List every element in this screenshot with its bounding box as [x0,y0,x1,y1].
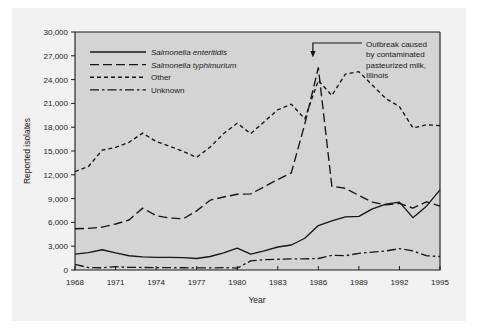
y-tick-label: 24,000 [44,76,69,85]
x-tick-label: 1995 [431,278,449,287]
y-tick-label: 15,000 [44,147,69,156]
y-tick-label: 12,000 [44,171,69,180]
annotation-text-line: by contaminated [366,50,425,59]
x-tick-label: 1968 [66,278,84,287]
y-tick-label: 27,000 [44,52,69,61]
legend-label: Unknown [151,86,184,95]
x-axis-title: Year [248,295,265,305]
salmonella-isolates-line-chart: 03,0006,0009,00012,00015,00018,00021,000… [0,0,478,329]
x-tick-label: 1983 [269,278,287,287]
y-tick-label: 6,000 [48,218,69,227]
y-tick-label: 18,000 [44,123,69,132]
x-tick-label: 1977 [188,278,206,287]
legend-label: Salmonella typhimurium [151,61,237,70]
x-tick-label: 1989 [350,278,368,287]
y-tick-label: 30,000 [44,28,69,37]
x-tick-label: 1980 [228,278,246,287]
y-axis-title: Reported isolates [22,118,32,184]
annotation-text-line: Illinois [366,71,388,80]
legend-label: Salmonella enteritidis [151,48,227,57]
x-tick-label: 1974 [147,278,165,287]
y-tick-label: 0 [64,266,69,275]
legend-label: Other [151,73,171,82]
y-tick-label: 21,000 [44,99,69,108]
x-tick-label: 1971 [107,278,125,287]
y-tick-label: 3,000 [48,242,69,251]
annotation-text-line: pasteurized milk, [366,61,426,70]
x-tick-label: 1986 [309,278,327,287]
annotation-text-line: Outbreak caused [366,40,427,49]
y-axis-ticks: 03,0006,0009,00012,00015,00018,00021,000… [44,28,75,275]
x-tick-label: 1992 [391,278,409,287]
y-tick-label: 9,000 [48,195,69,204]
